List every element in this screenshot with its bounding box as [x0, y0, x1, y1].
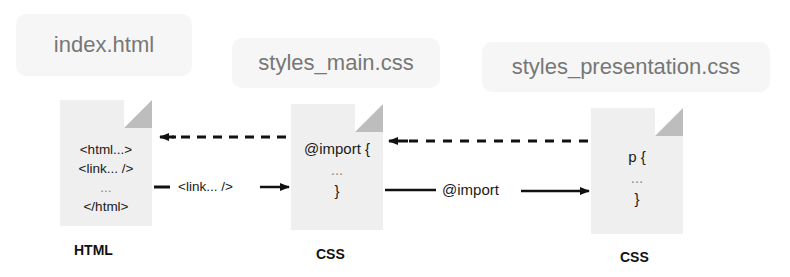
arrow-label-link: <link... />: [178, 179, 233, 194]
arrows-layer: [0, 0, 790, 277]
arrow-label-import: @import: [442, 181, 499, 198]
